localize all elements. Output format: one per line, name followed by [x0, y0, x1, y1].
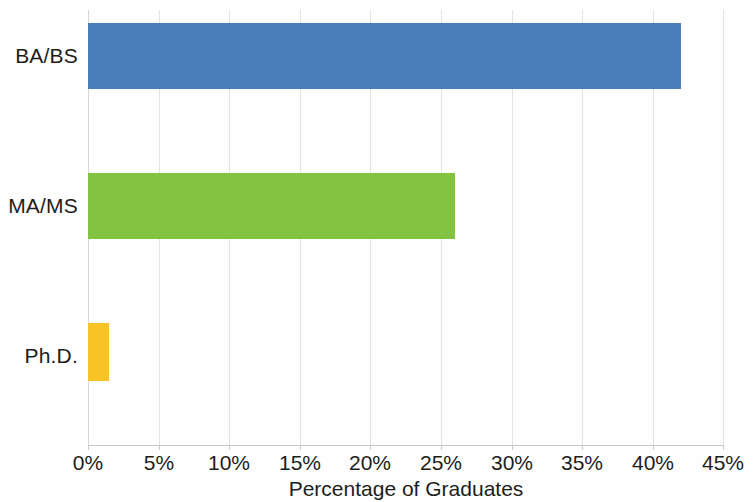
- xtick-mark-30: [512, 445, 513, 450]
- xtick-mark-35: [582, 445, 583, 450]
- xtick-mark-5: [159, 445, 160, 450]
- x-axis-line: [88, 445, 724, 446]
- category-label-ba-bs: BA/BS: [0, 44, 78, 68]
- y-axis-labels: BA/BS MA/MS Ph.D.: [0, 0, 78, 445]
- gridline-45: [723, 10, 724, 445]
- x-axis-title: Percentage of Graduates: [88, 477, 724, 501]
- xtick-label-45: 45%: [688, 451, 755, 475]
- bar-phd: [88, 323, 109, 381]
- xtick-mark-40: [653, 445, 654, 450]
- category-label-ma-ms: MA/MS: [0, 194, 78, 218]
- xtick-label-20: 20%: [335, 451, 405, 475]
- bar-chart: BA/BS MA/MS Ph.D. 0% 5% 10% 15% 20% 25% …: [0, 0, 755, 502]
- xtick-label-5: 5%: [124, 451, 194, 475]
- xtick-mark-20: [370, 445, 371, 450]
- xtick-mark-10: [229, 445, 230, 450]
- category-label-phd: Ph.D.: [0, 344, 78, 368]
- xtick-label-10: 10%: [194, 451, 264, 475]
- xtick-label-35: 35%: [547, 451, 617, 475]
- bar-ba-bs: [88, 23, 681, 89]
- xtick-mark-45: [723, 445, 724, 450]
- xtick-label-0: 0%: [53, 451, 123, 475]
- xtick-label-25: 25%: [406, 451, 476, 475]
- xtick-mark-15: [300, 445, 301, 450]
- xtick-mark-0: [88, 445, 89, 450]
- bar-ma-ms: [88, 173, 455, 239]
- xtick-label-30: 30%: [477, 451, 547, 475]
- xtick-label-40: 40%: [618, 451, 688, 475]
- xtick-mark-25: [441, 445, 442, 450]
- xtick-label-15: 15%: [265, 451, 335, 475]
- plot-area: [88, 10, 723, 445]
